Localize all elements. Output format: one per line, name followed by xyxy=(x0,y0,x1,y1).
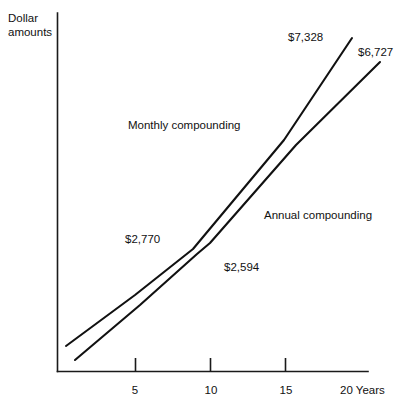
chart-canvas: Dollar amounts 5 10 15 20 Years Monthly … xyxy=(0,0,407,413)
x-axis-end-label: 20 Years xyxy=(340,384,385,396)
value-label-monthly-end: $7,328 xyxy=(288,31,323,43)
series-label-annual: Annual compounding xyxy=(264,209,372,221)
x-tick-label-15: 15 xyxy=(280,384,293,396)
series-label-monthly: Monthly compounding xyxy=(128,119,241,131)
x-tick-label-10: 10 xyxy=(205,384,218,396)
compounding-line-chart: Dollar amounts 5 10 15 20 Years Monthly … xyxy=(0,0,407,413)
x-tick-label-5: 5 xyxy=(132,384,138,396)
value-label-annual-mid: $2,594 xyxy=(224,261,260,273)
value-label-annual-end: $6,727 xyxy=(358,46,393,58)
series-line-monthly xyxy=(66,38,352,346)
value-label-monthly-mid: $2,770 xyxy=(125,233,160,245)
y-axis-label-line2: amounts xyxy=(8,26,52,38)
y-axis-label-line1: Dollar xyxy=(8,12,38,24)
